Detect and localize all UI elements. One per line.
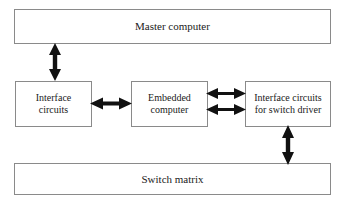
double-arrow-horizontal-icon-embedded-to-switch-driver-upper [206,86,246,101]
block-master-computer: Master computer [14,9,331,44]
double-arrow-horizontal-icon-interface-to-embedded [90,95,132,112]
double-arrow-horizontal-icon-embedded-to-switch-driver-lower [206,102,246,117]
double-arrow-vertical-icon-switch-driver-to-switch-matrix [279,125,297,165]
block-embedded-computer: Embedded computer [131,81,208,127]
block-interface-circuits: Interface circuits [15,81,92,127]
block-diagram: Master computer Interface circuits Embed… [0,0,346,206]
block-interface-circuits-for-switch-driver: Interface circuits for switch driver [245,81,331,127]
block-switch-matrix: Switch matrix [14,163,331,195]
double-arrow-vertical-icon-master-to-interface [46,43,64,81]
